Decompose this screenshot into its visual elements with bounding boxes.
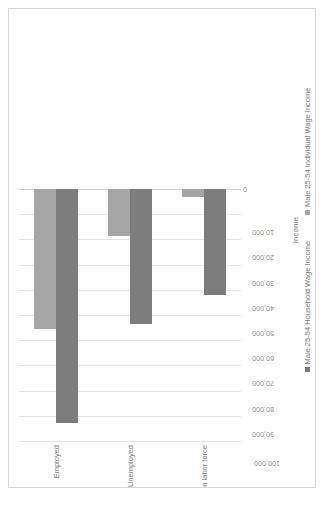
value-axis: 010,00020,00030,00040,00050,00060,00070,… — [241, 189, 287, 441]
chart-canvas: EmployedUnemployedNot in labor force 010… — [9, 9, 315, 487]
value-tick-label: 0 — [243, 186, 247, 193]
value-tick-label: 80,000 — [252, 406, 274, 413]
category-axis: EmployedUnemployedNot in labor force — [19, 441, 241, 487]
chart-rotation-wrapper: EmployedUnemployedNot in labor force 010… — [9, 9, 315, 487]
value-tick-label: 70,000 — [252, 380, 274, 387]
legend-label: Male 25-54 Individual Wage Income — [303, 88, 312, 207]
plot-area — [19, 189, 241, 441]
bar — [204, 189, 226, 295]
value-tick-label: 60,000 — [252, 355, 274, 362]
legend-swatch-icon — [305, 210, 310, 215]
value-axis-title: Income — [291, 19, 300, 441]
bar — [56, 189, 78, 423]
bar — [34, 189, 56, 329]
legend-swatch-icon — [305, 367, 310, 372]
category-label: Not in labor force — [200, 445, 209, 488]
chart-legend: Male 25-54 Household Wage IncomeMale 25-… — [303, 19, 312, 441]
value-tick-label: 40,000 — [252, 305, 274, 312]
bar-group — [93, 189, 167, 441]
value-tick-label: 50,000 — [252, 330, 274, 337]
value-tick-label: 20,000 — [252, 254, 274, 261]
value-tick-label: 30,000 — [252, 280, 274, 287]
bar-group — [167, 189, 241, 441]
legend-entry: Male 25-54 Household Wage Income — [303, 241, 312, 373]
value-tick-label: 90,000 — [252, 431, 274, 438]
legend-entry: Male 25-54 Individual Wage Income — [303, 88, 312, 215]
bar — [182, 189, 204, 197]
value-tick-label: 10,000 — [252, 229, 274, 236]
category-label: Employed — [52, 445, 61, 478]
bar-group — [19, 189, 93, 441]
chart-figure-frame: EmployedUnemployedNot in labor force 010… — [8, 8, 316, 488]
bar — [130, 189, 152, 324]
value-tick-label: 100,000 — [254, 460, 280, 467]
category-label: Unemployed — [126, 445, 135, 487]
bar — [108, 189, 130, 236]
legend-label: Male 25-54 Household Wage Income — [303, 241, 312, 365]
